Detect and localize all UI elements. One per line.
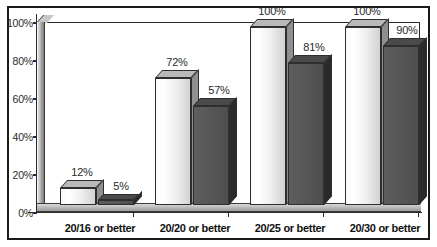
bar-group3-dark[interactable] <box>288 55 324 205</box>
bar-value-label: 81% <box>292 41 336 53</box>
bar-side-face <box>229 97 237 205</box>
bar-group2-dark[interactable] <box>193 98 229 205</box>
y-tick-label: 0% <box>18 207 33 219</box>
bar-value-label: 5% <box>100 180 142 192</box>
bar-side-face <box>324 54 332 205</box>
bar-group2-light[interactable] <box>155 70 191 205</box>
x-category-label-3: 20/25 or better <box>243 222 337 234</box>
x-tick-mark <box>418 212 419 217</box>
bar-group3-light[interactable] <box>250 19 286 205</box>
x-category-label-4: 20/30 or better <box>338 222 432 234</box>
y-tick-mark <box>33 174 37 176</box>
x-tick-mark <box>228 212 229 217</box>
y-tick-mark <box>33 98 37 100</box>
bar-group4-dark[interactable] <box>383 38 419 205</box>
bar-front-face <box>383 46 419 205</box>
bar-value-label: 12% <box>60 166 104 178</box>
bar-front-face <box>98 200 134 205</box>
bar-value-label: 100% <box>343 5 391 17</box>
x-tick-mark <box>133 212 134 217</box>
y-tick-mark <box>33 136 37 138</box>
bar-chart-figure: 100% 80% 60% 40% 20% 0% 12% 5% <box>0 0 437 247</box>
bar-side-face <box>419 37 427 205</box>
y-tick-mark <box>33 22 37 24</box>
bar-front-face <box>155 78 191 205</box>
y-tick-mark <box>33 212 37 214</box>
y-tick-label: 20% <box>13 169 33 181</box>
bar-group4-light[interactable] <box>345 19 381 205</box>
y-tick-label: 60% <box>13 93 33 105</box>
y-axis-line <box>36 14 37 213</box>
bar-value-label: 90% <box>385 24 429 36</box>
bar-value-label: 72% <box>155 56 199 68</box>
bar-front-face <box>193 106 229 205</box>
bar-front-face <box>250 27 286 205</box>
bar-value-label: 57% <box>197 84 241 96</box>
y-axis-wall <box>36 22 45 211</box>
bar-front-face <box>288 63 324 205</box>
bar-value-label: 100% <box>248 5 296 17</box>
x-axis-line <box>28 212 422 213</box>
x-category-label-2: 20/20 or better <box>148 222 242 234</box>
bar-group1-light[interactable] <box>60 180 96 205</box>
x-tick-mark <box>323 212 324 217</box>
bar-front-face <box>60 188 96 205</box>
y-tick-label: 100% <box>7 17 33 29</box>
bar-front-face <box>345 27 381 205</box>
y-tick-label: 80% <box>13 55 33 67</box>
bar-group1-dark[interactable] <box>98 194 134 205</box>
x-category-label-1: 20/16 or better <box>53 222 147 234</box>
y-tick-label: 40% <box>13 131 33 143</box>
y-tick-mark <box>33 60 37 62</box>
